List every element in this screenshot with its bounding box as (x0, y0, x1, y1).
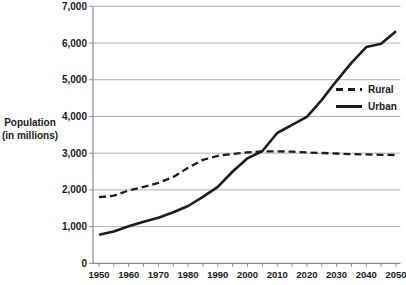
urban-series-line (99, 31, 396, 234)
y-tick-label: 0 (81, 258, 87, 269)
x-tick-label: 1960 (118, 269, 139, 280)
x-tick-label: 1980 (178, 269, 199, 280)
chart-plot-area: 01,0002,0003,0004,0005,0006,0007,0001950… (0, 0, 406, 285)
y-tick-label: 3,000 (62, 148, 87, 159)
chart-canvas: Population (in millions) 01,0002,0003,00… (0, 0, 406, 285)
legend: Rural Urban (336, 83, 397, 113)
x-tick-label: 2010 (267, 269, 288, 280)
y-tick-label: 7,000 (62, 1, 87, 12)
y-tick-label: 5,000 (62, 74, 87, 85)
x-tick-label: 1950 (88, 269, 109, 280)
x-tick-label: 2040 (356, 269, 377, 280)
x-tick-label: 2000 (237, 269, 258, 280)
legend-label-urban: Urban (368, 101, 397, 112)
x-tick-label: 1990 (207, 269, 228, 280)
x-tick-label: 1970 (148, 269, 169, 280)
y-tick-label: 6,000 (62, 38, 87, 49)
legend-item-rural: Rural (336, 83, 397, 96)
x-tick-label: 2030 (326, 269, 347, 280)
legend-item-urban: Urban (336, 100, 397, 113)
urban-line-sample-icon (336, 105, 362, 108)
y-tick-label: 4,000 (62, 111, 87, 122)
x-tick-label: 2020 (296, 269, 317, 280)
rural-line-sample-icon (336, 88, 362, 91)
x-tick-label: 2050 (385, 269, 406, 280)
y-tick-label: 2,000 (62, 184, 87, 195)
y-tick-label: 1,000 (62, 221, 87, 232)
legend-label-rural: Rural (368, 84, 394, 95)
